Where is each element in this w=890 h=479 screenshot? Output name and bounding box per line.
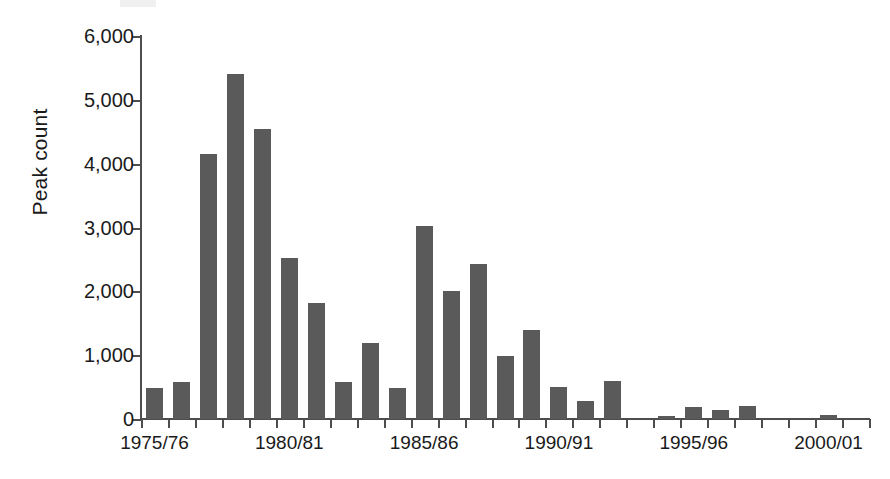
bar	[362, 343, 379, 419]
x-axis-tick-mark	[680, 419, 682, 428]
x-axis-tick-label: 1995/96	[659, 432, 728, 454]
x-axis-tick-label: 1975/76	[120, 432, 189, 454]
y-axis-tick-label: 4,000	[84, 152, 134, 175]
bar	[685, 407, 702, 419]
bar	[173, 382, 190, 419]
x-axis-tick-mark	[626, 419, 628, 428]
bar	[550, 387, 567, 419]
bar	[820, 415, 837, 419]
y-axis-tick-label: 6,000	[84, 25, 134, 48]
x-axis-tick-mark	[761, 419, 763, 428]
y-axis-tick-label: 0	[123, 408, 134, 431]
x-axis-tick-mark	[788, 419, 790, 428]
x-axis-tick-mark	[303, 419, 305, 428]
y-axis-title: Peak count	[28, 62, 52, 262]
bar	[281, 258, 298, 419]
x-axis-tick-mark	[707, 419, 709, 428]
x-axis-tick-label: 1980/81	[255, 432, 324, 454]
x-axis-tick-mark	[276, 419, 278, 428]
bar	[308, 303, 325, 419]
x-axis-tick-mark	[411, 419, 413, 428]
bar	[443, 291, 460, 419]
x-axis-tick-mark	[465, 419, 467, 428]
x-axis-tick-label: 2000/01	[794, 432, 863, 454]
x-axis-tick-mark	[545, 419, 547, 428]
bar	[200, 154, 217, 419]
bar	[712, 410, 729, 419]
bar	[146, 388, 163, 419]
x-axis-tick-mark	[842, 419, 844, 428]
x-axis-tick-mark	[734, 419, 736, 428]
bar	[658, 416, 675, 419]
x-axis-tick-mark	[249, 419, 251, 428]
y-axis-tick-label: 1,000	[84, 344, 134, 367]
y-axis-tick-label: 5,000	[84, 88, 134, 111]
x-axis-tick-mark	[195, 419, 197, 428]
x-axis-tick-mark	[572, 419, 574, 428]
x-axis-tick-label: 1985/86	[390, 432, 459, 454]
bar	[604, 381, 621, 419]
x-axis-tick-mark	[599, 419, 601, 428]
bar	[254, 129, 271, 419]
x-axis-tick-mark	[222, 419, 224, 428]
bar	[416, 226, 433, 419]
page-artifact-smudge	[120, 0, 156, 7]
bar	[227, 74, 244, 419]
x-axis-tick-mark	[869, 419, 871, 428]
bar	[389, 388, 406, 419]
bar	[577, 401, 594, 420]
bar	[523, 330, 540, 419]
bars-layer	[141, 36, 869, 419]
bar	[470, 264, 487, 419]
bar	[497, 356, 514, 419]
x-axis-tick-mark	[815, 419, 817, 428]
x-axis-tick-mark	[653, 419, 655, 428]
x-axis-tick-mark	[492, 419, 494, 428]
x-axis-tick-mark	[357, 419, 359, 428]
x-axis-tick-mark	[330, 419, 332, 428]
x-axis-tick-mark	[141, 419, 143, 428]
x-axis-tick-mark	[384, 419, 386, 428]
bar-chart: Peak count 01,0002,0003,0004,0005,0006,0…	[0, 0, 890, 479]
y-axis-tick-label: 3,000	[84, 216, 134, 239]
y-axis-tick-label: 2,000	[84, 280, 134, 303]
x-axis-tick-label: 1990/91	[525, 432, 594, 454]
bar	[335, 382, 352, 419]
x-axis-tick-mark	[168, 419, 170, 428]
x-axis-tick-mark	[438, 419, 440, 428]
x-axis-tick-mark	[518, 419, 520, 428]
bar	[739, 406, 756, 419]
